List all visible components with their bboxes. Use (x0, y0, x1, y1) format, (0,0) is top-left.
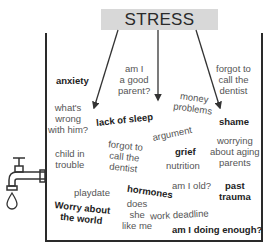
word-does-she-like-me: doesshelike me (122, 198, 152, 231)
word-grief: grief (175, 146, 196, 157)
word-past-trauma: pasttrauma (219, 180, 251, 202)
word-nutrition: nutrition (166, 160, 200, 171)
word-forgot-dentist-1: forgot tocall thedentist (216, 63, 251, 96)
word-am-i-doing-enough: am I doing enough? (172, 224, 262, 235)
word-forgot-dentist-2: forgot tocall thedentist (105, 138, 143, 174)
word-whats-wrong: what'swrongwith him? (48, 102, 88, 135)
word-child-in-trouble: child introuble (55, 148, 85, 170)
word-am-i-good-parent: am Ia goodparent? (118, 63, 150, 96)
faucet-icon (7, 158, 45, 190)
word-anxiety: anxiety (56, 75, 89, 86)
water-drop-icon (7, 193, 17, 209)
word-am-i-old: am I old? (172, 180, 211, 191)
word-shame: shame (219, 116, 249, 127)
arrow-0 (94, 30, 118, 108)
word-worrying-parents: worryingabout agingparents (210, 135, 260, 168)
word-playdate: playdate (74, 187, 110, 198)
